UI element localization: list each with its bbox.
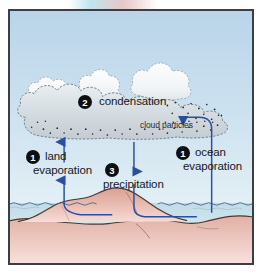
water-cycle-figure: 2 condensation cloud particles 1 land ev… (0, 0, 263, 276)
badge-condensation: 2 (78, 95, 92, 109)
diagram-frame: 2 condensation cloud particles 1 land ev… (8, 9, 254, 265)
label-precipitation: precipitation (103, 178, 164, 192)
label-ocean-evaporation-line1: ocean (195, 146, 226, 160)
far-land (10, 216, 252, 263)
label-cloud-particles: cloud particles (140, 120, 193, 130)
label-condensation: condensation (99, 95, 166, 109)
badge-land-evaporation: 1 (26, 150, 40, 164)
badge-ocean-evaporation: 1 (176, 146, 190, 160)
top-edge-glow (0, 0, 263, 9)
label-land-evaporation-line2: evaporation (33, 164, 92, 178)
label-land-evaporation-line1: land (45, 150, 66, 164)
badge-precipitation: 3 (105, 163, 119, 177)
label-ocean-evaporation-line2: evaporation (183, 160, 242, 174)
water-cycle-scene (10, 11, 252, 263)
